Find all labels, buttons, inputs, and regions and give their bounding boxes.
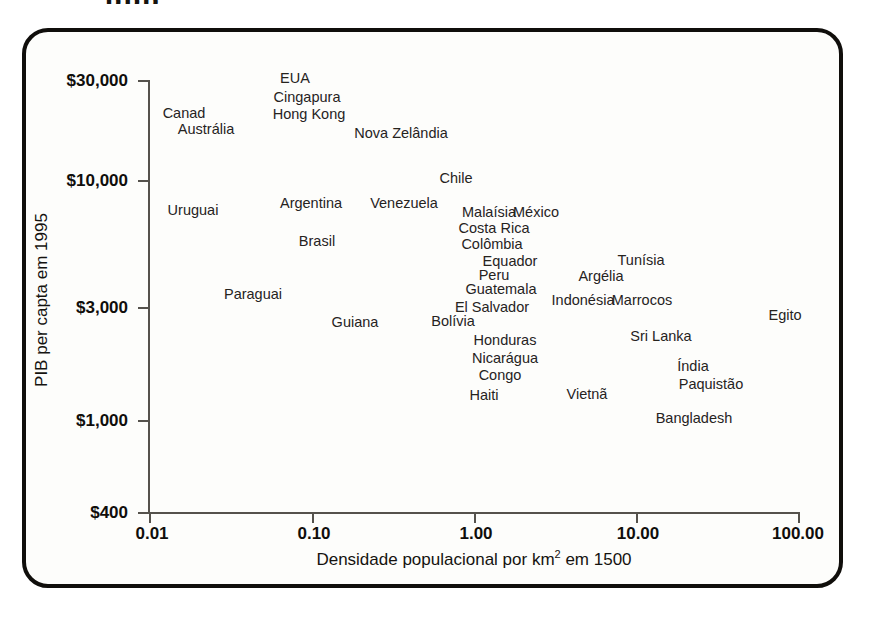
data-point-label: Nova Zelândia [354, 126, 448, 141]
data-point-label: Hong Kong [273, 107, 346, 122]
data-point-label: Argentina [280, 196, 342, 211]
x-tick-label-0-10: 0.10 [254, 524, 374, 544]
data-point-label: Haiti [469, 388, 498, 403]
x-tick-label-100-00: 100.00 [738, 524, 858, 544]
x-tick-mark [798, 512, 800, 523]
y-tick-mark [138, 512, 149, 514]
data-point-label: Bolívia [431, 314, 475, 329]
data-point-label: Argélia [578, 269, 623, 284]
y-tick-label-3000: $3,000 [8, 298, 128, 318]
data-point-label: Tunísia [617, 253, 664, 268]
data-point-label: Malaísia [462, 205, 516, 220]
data-point-label: México [513, 205, 559, 220]
x-tick-mark [149, 512, 151, 523]
y-tick-label-10000: $10,000 [8, 171, 128, 191]
data-point-label: Vietnã [567, 387, 608, 402]
x-tick-mark [474, 512, 476, 523]
data-point-label: Marrocos [612, 293, 672, 308]
data-point-label: Paraguai [224, 287, 282, 302]
data-point-label: Costa Rica [459, 221, 530, 236]
data-point-label: Indonésia [552, 293, 615, 308]
y-tick-mark [138, 307, 149, 309]
data-point-label: Guatemala [466, 282, 537, 297]
x-axis-title: Densidade populacional por km2 em 1500 [148, 548, 800, 570]
data-point-label: Honduras [474, 333, 537, 348]
data-point-label: Paquistão [679, 377, 744, 392]
x-tick-label-0-01: 0.01 [92, 524, 212, 544]
data-point-label: Chile [439, 171, 472, 186]
x-tick-label-1-00: 1.00 [416, 524, 536, 544]
data-point-label: Egito [768, 308, 801, 323]
data-point-label: Nicarágua [472, 351, 538, 366]
data-point-label: Guiana [332, 315, 379, 330]
x-tick-mark [636, 512, 638, 523]
data-point-label: Bangladesh [656, 411, 733, 426]
data-point-label: Austrália [178, 122, 234, 137]
scatter-plot: $30,000 $10,000 $3,000 $1,000 $400 0.01 … [0, 0, 869, 618]
x-axis-title-main: Densidade populacional por km [316, 550, 554, 569]
data-point-label: Sri Lanka [630, 329, 691, 344]
y-tick-label-30000: $30,000 [8, 71, 128, 91]
y-axis-line [148, 80, 150, 514]
data-point-label: Canad [163, 106, 206, 121]
data-point-label: Cingapura [274, 90, 341, 105]
x-axis-title-tail: em 1500 [561, 550, 632, 569]
data-point-label: Congo [479, 368, 522, 383]
y-axis-title: PIB per capta em 1995 [32, 140, 52, 460]
data-point-label: Colômbia [461, 237, 522, 252]
data-point-label: Brasil [299, 234, 335, 249]
y-tick-label-400: $400 [8, 503, 128, 523]
y-tick-label-1000: $1,000 [8, 411, 128, 431]
x-tick-label-10-00: 10.00 [578, 524, 698, 544]
data-point-label: Uruguai [168, 203, 219, 218]
data-point-label: EUA [280, 71, 310, 86]
x-tick-mark [312, 512, 314, 523]
y-tick-mark [138, 180, 149, 182]
y-tick-mark [138, 420, 149, 422]
y-tick-mark [138, 80, 149, 82]
data-point-label: Índia [677, 359, 708, 374]
data-point-label: Venezuela [370, 196, 438, 211]
